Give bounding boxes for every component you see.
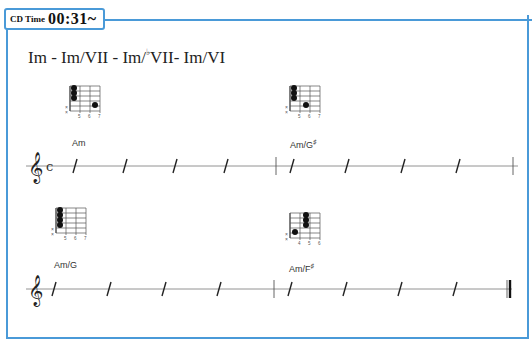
svg-text:5: 5 <box>78 114 81 119</box>
svg-text:5: 5 <box>308 241 311 246</box>
progression-heading: Im - Im/VII - Im/♭VII- Im/VI <box>28 48 225 68</box>
svg-text:×: × <box>285 236 288 242</box>
chord-diagram-am-g: ×× 567 <box>48 206 98 246</box>
svg-text:×: × <box>51 231 54 237</box>
svg-text:7: 7 <box>98 114 101 119</box>
chord-label-am-g: Am/G <box>54 260 77 270</box>
chord-label-am-g-sharp: Am/G♯ <box>290 138 317 150</box>
svg-text:6: 6 <box>308 114 311 119</box>
staff-system-2: 𝄞 <box>0 273 532 313</box>
svg-text:5: 5 <box>298 114 301 119</box>
svg-text:c: c <box>46 159 53 174</box>
svg-text:×: × <box>65 109 68 115</box>
cd-time-badge: CD Time 00:31~ <box>4 8 105 30</box>
progression-text-a: Im - Im/VII - Im/ <box>28 48 146 67</box>
progression-text-b: VII- Im/VI <box>150 48 225 67</box>
svg-text:5: 5 <box>64 236 67 241</box>
svg-text:4: 4 <box>298 241 301 246</box>
chord-label-am: Am <box>72 138 86 148</box>
cd-time-value: 00:31~ <box>48 10 97 28</box>
cd-time-label: CD Time <box>10 14 45 24</box>
svg-text:𝄞: 𝄞 <box>28 275 43 307</box>
svg-text:×: × <box>285 109 288 115</box>
staff-system-1: 𝄞 c <box>0 150 532 190</box>
svg-text:6: 6 <box>74 236 77 241</box>
chord-diagram-am-f-sharp: ×× 456 <box>282 211 332 251</box>
svg-text:7: 7 <box>84 236 87 241</box>
svg-text:6: 6 <box>88 114 91 119</box>
chord-diagram-am: ×× 567 <box>62 84 112 124</box>
flat-symbol: ♭ <box>146 47 150 57</box>
chord-diagram-am-g-sharp: ×× 567 <box>282 84 332 124</box>
svg-text:𝄞: 𝄞 <box>28 152 43 184</box>
svg-text:6: 6 <box>318 241 321 246</box>
svg-text:7: 7 <box>318 114 321 119</box>
